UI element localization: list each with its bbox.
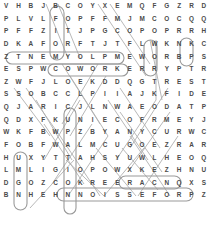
grid-cell[interactable]: F (148, 0, 160, 13)
grid-cell[interactable]: S (185, 76, 197, 89)
grid-cell[interactable]: G (12, 177, 24, 190)
grid-cell[interactable]: L (148, 152, 160, 165)
grid-cell[interactable]: I (99, 189, 111, 202)
grid-cell[interactable]: I (49, 101, 61, 114)
grid-cell[interactable]: Z (161, 164, 173, 177)
grid-cell[interactable]: S (99, 152, 111, 165)
grid-cell[interactable]: O (74, 0, 86, 13)
grid-cell[interactable]: H (161, 152, 173, 165)
grid-cell[interactable]: L (37, 13, 49, 26)
grid-cell[interactable]: F (49, 13, 61, 26)
grid-cell[interactable]: Y (86, 0, 98, 13)
grid-cell[interactable]: D (185, 88, 197, 101)
grid-cell[interactable]: M (111, 51, 123, 64)
grid-cell[interactable]: A (74, 152, 86, 165)
grid-cell[interactable]: M (124, 0, 136, 13)
grid-cell[interactable]: C (148, 177, 160, 190)
grid-cell[interactable]: F (86, 13, 98, 26)
grid-cell[interactable]: K (185, 38, 197, 51)
grid-cell[interactable]: K (148, 88, 160, 101)
grid-cell[interactable]: X (25, 114, 37, 127)
grid-cell[interactable]: O (124, 114, 136, 127)
grid-cell[interactable]: T (49, 152, 61, 165)
grid-cell[interactable]: L (49, 76, 61, 89)
grid-cell[interactable]: R (124, 177, 136, 190)
grid-cell[interactable]: Z (161, 139, 173, 152)
grid-cell[interactable]: A (124, 88, 136, 101)
grid-cell[interactable]: E (173, 114, 185, 127)
grid-cell[interactable]: O (86, 189, 98, 202)
grid-cell[interactable]: W (136, 51, 148, 64)
grid-cell[interactable]: N (185, 164, 197, 177)
grid-cell[interactable]: T (148, 76, 160, 89)
grid-cell[interactable]: O (74, 164, 86, 177)
grid-cell[interactable]: Q (198, 13, 210, 26)
grid-cell[interactable]: W (0, 126, 12, 139)
grid-cell[interactable]: Q (173, 177, 185, 190)
grid-cell[interactable]: I (111, 88, 123, 101)
grid-cell[interactable]: M (161, 114, 173, 127)
grid-cell[interactable]: I (62, 164, 74, 177)
grid-cell[interactable]: E (136, 101, 148, 114)
grid-cell[interactable]: R (173, 139, 185, 152)
grid-cell[interactable]: P (25, 63, 37, 76)
grid-cell[interactable]: L (12, 13, 24, 26)
grid-cell[interactable]: Q (0, 101, 12, 114)
grid-cell[interactable]: F (25, 126, 37, 139)
grid-cell[interactable]: E (136, 189, 148, 202)
grid-cell[interactable]: J (124, 13, 136, 26)
grid-cell[interactable]: W (185, 126, 197, 139)
grid-cell[interactable]: O (185, 152, 197, 165)
grid-cell[interactable]: W (148, 38, 160, 51)
grid-cell[interactable]: D (0, 38, 12, 51)
grid-cell[interactable]: P (0, 25, 12, 38)
grid-cell[interactable]: U (161, 126, 173, 139)
grid-cell[interactable]: T (185, 101, 197, 114)
grid-cell[interactable]: M (49, 51, 61, 64)
grid-cell[interactable]: C (173, 13, 185, 26)
grid-cell[interactable]: W (111, 164, 123, 177)
grid-cell[interactable]: P (86, 25, 98, 38)
grid-cell[interactable]: F (74, 38, 86, 51)
grid-cell[interactable]: C (148, 126, 160, 139)
grid-cell[interactable]: I (173, 88, 185, 101)
grid-cell[interactable]: R (173, 189, 185, 202)
grid-cell[interactable]: C (111, 114, 123, 127)
grid-cell[interactable]: E (99, 114, 111, 127)
grid-cell[interactable]: W (74, 63, 86, 76)
grid-cell[interactable]: R (62, 38, 74, 51)
grid-cell[interactable]: C (148, 13, 160, 26)
grid-cell[interactable]: U (62, 114, 74, 127)
grid-cell[interactable]: O (148, 25, 160, 38)
grid-cell[interactable]: I (49, 25, 61, 38)
grid-cell[interactable]: N (124, 126, 136, 139)
grid-cell[interactable]: O (62, 63, 74, 76)
grid-cell[interactable]: B (25, 0, 37, 13)
grid-cell[interactable]: D (111, 76, 123, 89)
grid-cell[interactable]: Q (0, 114, 12, 127)
grid-cell[interactable]: P (74, 13, 86, 26)
grid-cell[interactable]: E (198, 88, 210, 101)
grid-cell[interactable]: F (161, 88, 173, 101)
grid-cell[interactable]: L (25, 164, 37, 177)
grid-cell[interactable]: M (111, 13, 123, 26)
grid-cell[interactable]: M (136, 13, 148, 26)
grid-cell[interactable]: R (185, 25, 197, 38)
grid-cell[interactable]: F (25, 76, 37, 89)
grid-cell[interactable]: N (74, 189, 86, 202)
grid-cell[interactable]: A (111, 126, 123, 139)
grid-cell[interactable]: E (111, 0, 123, 13)
grid-cell[interactable]: E (173, 152, 185, 165)
grid-cell[interactable]: N (25, 51, 37, 64)
grid-cell[interactable]: L (74, 139, 86, 152)
grid-cell[interactable]: A (62, 139, 74, 152)
grid-cell[interactable]: D (0, 177, 12, 190)
grid-cell[interactable]: R (173, 25, 185, 38)
grid-cell[interactable]: J (99, 38, 111, 51)
grid-cell[interactable]: P (185, 189, 197, 202)
grid-cell[interactable]: T (12, 51, 24, 64)
grid-cell[interactable]: G (136, 76, 148, 89)
grid-cell[interactable]: O (62, 76, 74, 89)
grid-cell[interactable]: W (136, 152, 148, 165)
grid-cell[interactable]: C (49, 88, 61, 101)
